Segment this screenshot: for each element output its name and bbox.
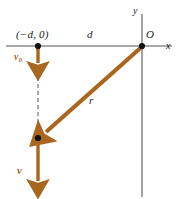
position-vector-label: r [89, 95, 93, 106]
final-velocity-label: v [17, 165, 22, 176]
origin-point-dot [139, 43, 145, 49]
position-vector-arrow [46, 48, 141, 133]
physics-diagram-figure: (−d, 0) d O x y r v0 v [0, 0, 178, 199]
initial-velocity-label: v0 [14, 52, 22, 64]
distance-d-label: d [87, 29, 93, 40]
initial-velocity-label-subscript: 0 [18, 56, 22, 64]
origin-label: O [146, 29, 154, 40]
start-point-coordinate-label: (−d, 0) [16, 29, 49, 40]
y-axis-label: y [133, 6, 137, 16]
particle-position-dot [35, 135, 41, 141]
x-axis-label: x [166, 41, 170, 51]
start-point-dot [35, 43, 41, 49]
